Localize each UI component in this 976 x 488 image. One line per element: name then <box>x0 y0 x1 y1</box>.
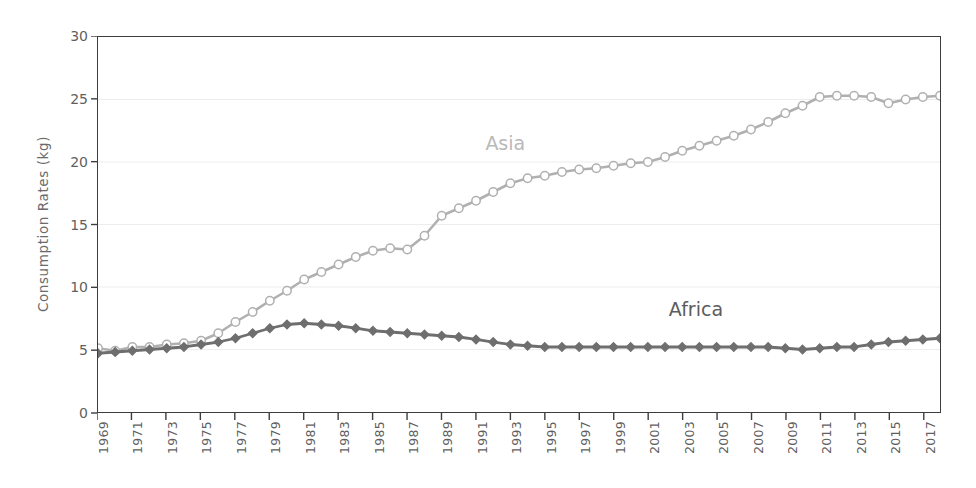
data-point <box>919 93 927 101</box>
x-tick-label-1975: 1975 <box>199 421 214 454</box>
data-point <box>334 260 342 268</box>
data-point <box>540 343 549 352</box>
data-point <box>317 320 326 329</box>
data-point <box>798 345 807 354</box>
x-tick-label-1979: 1979 <box>268 421 283 454</box>
x-tick-label-2015: 2015 <box>888 421 903 454</box>
plot-area: Asia Africa <box>97 36 941 413</box>
data-point <box>266 297 274 305</box>
x-tick-label-2001: 2001 <box>647 421 662 454</box>
x-tick-label-2013: 2013 <box>853 421 868 454</box>
x-tick-label-1983: 1983 <box>337 421 352 454</box>
data-point <box>352 253 360 261</box>
data-point <box>214 338 223 347</box>
data-point <box>867 340 876 349</box>
x-tick-label-2005: 2005 <box>716 421 731 454</box>
x-tick-label-1985: 1985 <box>371 421 386 454</box>
x-tick-label-2011: 2011 <box>819 421 834 454</box>
series-line-africa <box>98 323 940 353</box>
data-point <box>901 95 909 103</box>
data-point <box>695 142 703 150</box>
data-point <box>764 118 772 126</box>
data-point <box>643 343 652 352</box>
x-tick-label-1997: 1997 <box>578 421 593 454</box>
y-tick-label-25: 25 <box>54 92 88 106</box>
data-point <box>523 174 531 182</box>
data-point <box>627 159 635 167</box>
x-axis-tick-marks <box>97 413 941 421</box>
data-point <box>248 329 257 338</box>
data-point <box>815 344 824 353</box>
data-point <box>901 336 910 345</box>
data-point <box>489 338 498 347</box>
x-tick-label-1999: 1999 <box>612 421 627 454</box>
x-tick-label-1989: 1989 <box>440 421 455 454</box>
data-point <box>506 340 515 349</box>
data-point <box>833 92 841 100</box>
data-point <box>506 179 514 187</box>
data-point <box>403 329 412 338</box>
x-tick-label-1977: 1977 <box>233 421 248 454</box>
data-point <box>472 335 481 344</box>
data-point <box>283 320 292 329</box>
data-point <box>558 343 567 352</box>
data-point <box>918 335 927 344</box>
data-point <box>214 329 222 337</box>
x-tick-label-1971: 1971 <box>130 421 145 454</box>
series-africa <box>98 319 940 358</box>
data-point <box>781 109 789 117</box>
data-point <box>437 212 445 220</box>
data-point <box>798 102 806 110</box>
data-point <box>936 92 940 100</box>
data-point <box>936 334 940 343</box>
data-point <box>231 334 240 343</box>
y-axis-tick-marks <box>90 36 98 415</box>
data-point <box>609 162 617 170</box>
plot-svg <box>98 37 940 412</box>
data-point <box>661 153 669 161</box>
data-point <box>317 268 325 276</box>
data-point <box>712 137 720 145</box>
data-point <box>867 93 875 101</box>
data-point <box>609 343 618 352</box>
data-point <box>300 319 309 328</box>
data-point <box>454 333 463 342</box>
y-tick-label-5: 5 <box>54 343 88 357</box>
data-point <box>455 204 463 212</box>
data-point <box>678 147 686 155</box>
data-point <box>265 324 274 333</box>
data-point <box>369 326 378 335</box>
data-point <box>884 338 893 347</box>
series-label-africa: Africa <box>669 298 723 320</box>
x-tick-label-2017: 2017 <box>922 421 937 454</box>
data-point <box>248 308 256 316</box>
data-point <box>730 132 738 140</box>
x-tick-label-2009: 2009 <box>784 421 799 454</box>
x-tick-label-2003: 2003 <box>681 421 696 454</box>
data-point <box>747 343 756 352</box>
data-point <box>884 99 892 107</box>
x-tick-label-1995: 1995 <box>543 421 558 454</box>
y-tick-label-0: 0 <box>54 406 88 420</box>
data-point <box>850 92 858 100</box>
data-point <box>386 328 395 337</box>
data-point <box>386 244 394 252</box>
data-point <box>833 343 842 352</box>
data-point <box>523 341 532 350</box>
data-point <box>369 247 377 255</box>
data-point <box>283 287 291 295</box>
x-tick-label-1973: 1973 <box>164 421 179 454</box>
x-tick-label-1991: 1991 <box>474 421 489 454</box>
x-tick-label-2007: 2007 <box>750 421 765 454</box>
data-point <box>558 168 566 176</box>
data-point <box>351 324 360 333</box>
data-point <box>231 318 239 326</box>
data-point <box>420 232 428 240</box>
data-point <box>575 343 584 352</box>
data-point <box>592 343 601 352</box>
data-point <box>764 343 773 352</box>
data-point <box>747 125 755 133</box>
x-tick-label-1987: 1987 <box>406 421 421 454</box>
y-axis-tick-labels: 051015202530 <box>48 0 88 488</box>
data-point <box>541 172 549 180</box>
